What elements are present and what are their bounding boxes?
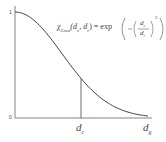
x-label-dg: dg [143, 121, 152, 135]
formula-frac-den: dr [140, 29, 145, 38]
x-label-dc: dc [76, 121, 84, 135]
formula-paren-left [134, 21, 136, 37]
y-tick-0: 0 [9, 114, 12, 120]
formula-big-paren-right [160, 18, 163, 40]
formula-annotation: χGmod(dc, dr) = exp [57, 22, 112, 33]
y-tick-1: 1 [9, 9, 12, 15]
formula-paren-right [151, 21, 153, 37]
formula-big-paren-left [122, 18, 125, 40]
formula-frac-num: dc [140, 19, 145, 28]
formula-exponent: 2 [155, 15, 158, 20]
